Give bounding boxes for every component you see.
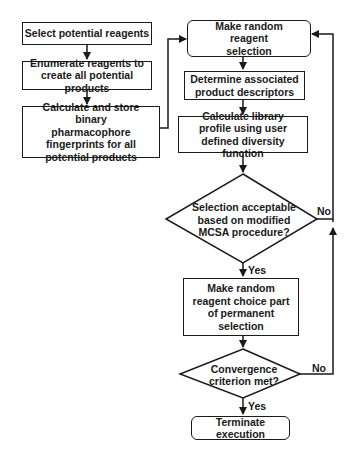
node-label: Calculate and store binary pharmacophore…	[37, 101, 145, 164]
node-label: Make random reagent choice part of perma…	[192, 282, 290, 332]
node-label: Select potential reagents	[25, 27, 149, 40]
edge-label-no: No	[312, 362, 326, 374]
decision-label: Convergence criterion met?	[205, 363, 283, 388]
node-select-reagents: Select potential reagents	[22, 22, 152, 45]
node-label: Determine associated product descriptors	[189, 73, 300, 98]
edge-label-no: No	[317, 205, 331, 217]
node-product-descriptors: Determine associated product descriptors	[184, 71, 305, 100]
node-terminate: Terminate execution	[191, 416, 290, 440]
decision-convergence: Convergence criterion met?	[205, 362, 283, 388]
node-label: Make random reagent selection	[206, 20, 292, 58]
decision-mcsa: Selection acceptable based on modified M…	[192, 200, 296, 240]
node-library-profile: Calculate library profile using user def…	[178, 116, 308, 153]
edge-label-yes: Yes	[248, 264, 266, 276]
node-label: Enumerate reagents to create all potenti…	[27, 57, 147, 95]
node-label: Terminate execution	[192, 416, 289, 441]
node-enumerate-reagents: Enumerate reagents to create all potenti…	[22, 61, 152, 90]
node-label: Calculate library profile using user def…	[185, 110, 301, 160]
node-permanent-selection: Make random reagent choice part of perma…	[183, 278, 299, 336]
decision-label: Selection acceptable based on modified M…	[192, 201, 296, 239]
node-random-selection: Make random reagent selection	[187, 20, 311, 57]
node-calculate-fingerprints: Calculate and store binary pharmacophore…	[22, 106, 160, 158]
edge-label-yes: Yes	[248, 400, 266, 412]
